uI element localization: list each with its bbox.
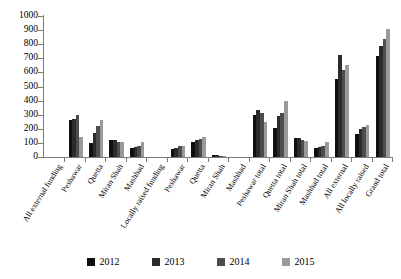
bar-group xyxy=(44,16,64,157)
plot-area xyxy=(44,16,392,157)
bar xyxy=(79,137,83,157)
x-axis-tick xyxy=(64,158,65,162)
legend-item: 2013 xyxy=(152,257,185,267)
x-axis-tick xyxy=(208,158,209,162)
x-axis-tick xyxy=(310,158,311,162)
x-axis-category-label: Quetta xyxy=(188,163,207,186)
bar xyxy=(284,101,288,157)
bar xyxy=(202,137,206,157)
y-axis-tick-label: 100 xyxy=(2,138,38,148)
x-axis-tick xyxy=(269,158,270,162)
x-axis-category-label: Quetta xyxy=(86,163,105,186)
bar xyxy=(386,29,390,157)
bar xyxy=(345,65,349,157)
x-axis-tick xyxy=(167,158,168,162)
bar-group xyxy=(126,16,146,157)
chart-legend: 2012201320142015 xyxy=(0,252,401,272)
bar-group xyxy=(167,16,187,157)
x-axis-tick xyxy=(392,158,393,162)
bar-group xyxy=(269,16,289,157)
y-axis-tick xyxy=(38,143,43,144)
bar-group xyxy=(64,16,84,157)
x-axis-tick xyxy=(331,158,332,162)
legend-swatch xyxy=(217,258,225,266)
bar-group xyxy=(146,16,166,157)
y-axis-tick xyxy=(38,30,43,31)
bar-group xyxy=(351,16,371,157)
y-axis-tick xyxy=(38,44,43,45)
y-axis-tick xyxy=(38,115,43,116)
bar xyxy=(304,141,308,157)
legend-label: 2014 xyxy=(230,257,250,267)
x-axis-tick xyxy=(105,158,106,162)
y-axis-tick xyxy=(38,129,43,130)
y-axis-tick xyxy=(38,101,43,102)
bar xyxy=(366,125,370,157)
x-axis-tick xyxy=(372,158,373,162)
bar xyxy=(100,120,104,157)
y-axis-tick-label: 600 xyxy=(2,67,38,77)
legend-item: 2012 xyxy=(87,257,120,267)
bar-group xyxy=(372,16,392,157)
x-axis-category-label: Locally raised funding xyxy=(120,163,167,230)
y-axis-tick xyxy=(38,58,43,59)
x-axis-tick xyxy=(228,158,229,162)
x-axis-line xyxy=(43,157,393,158)
y-axis-tick-label: 700 xyxy=(2,53,38,63)
legend-label: 2012 xyxy=(100,257,120,267)
x-axis-tick xyxy=(187,158,188,162)
x-axis-tick xyxy=(126,158,127,162)
legend-item: 2015 xyxy=(282,257,315,267)
bar xyxy=(325,142,329,158)
bar xyxy=(264,122,268,157)
x-axis-tick xyxy=(351,158,352,162)
y-axis-tick xyxy=(38,72,43,73)
legend-swatch xyxy=(282,258,290,266)
x-axis-tick xyxy=(85,158,86,162)
bar xyxy=(182,146,186,157)
y-axis-tick xyxy=(38,87,43,88)
y-axis-tick-label: 1000 xyxy=(2,11,38,21)
bar-group xyxy=(187,16,207,157)
bar-group xyxy=(228,16,248,157)
legend-swatch xyxy=(152,258,160,266)
y-axis-tick-label: 0 xyxy=(2,152,38,162)
bar-group xyxy=(331,16,351,157)
y-axis-tick-label: 300 xyxy=(2,110,38,120)
y-axis-tick-label: 500 xyxy=(2,82,38,92)
legend-label: 2013 xyxy=(165,257,185,267)
y-axis-tick-label: 900 xyxy=(2,25,38,35)
bar-group xyxy=(290,16,310,157)
x-axis-tick xyxy=(249,158,250,162)
bar xyxy=(141,142,145,158)
bar xyxy=(120,142,124,158)
bar-group xyxy=(249,16,269,157)
y-axis-labels: 01002003004005006007008009001000 xyxy=(0,0,38,279)
legend-label: 2015 xyxy=(295,257,315,267)
legend-swatch xyxy=(87,258,95,266)
legend-item: 2014 xyxy=(217,257,250,267)
bar xyxy=(223,156,227,157)
bar-group xyxy=(105,16,125,157)
bar-group xyxy=(310,16,330,157)
bar-group xyxy=(85,16,105,157)
bar-chart: 01002003004005006007008009001000 All ext… xyxy=(0,0,401,279)
y-axis-tick xyxy=(38,157,43,158)
y-axis-tick xyxy=(38,16,43,17)
y-axis-tick-label: 200 xyxy=(2,124,38,134)
x-axis-tick xyxy=(146,158,147,162)
x-axis-category-label: Peshawar xyxy=(163,163,187,194)
bar-group xyxy=(208,16,228,157)
x-axis-tick xyxy=(290,158,291,162)
y-axis-tick-label: 800 xyxy=(2,39,38,49)
y-axis-tick-label: 400 xyxy=(2,96,38,106)
